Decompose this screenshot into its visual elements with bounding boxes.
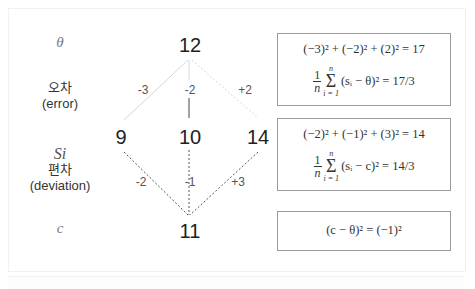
c-label: c bbox=[15, 220, 105, 237]
deviation-value-3: +3 bbox=[231, 175, 245, 189]
deviation-edge-1 bbox=[124, 152, 188, 215]
theta-label: θ bbox=[15, 34, 105, 51]
theta-node: 12 bbox=[179, 34, 201, 56]
deviation-formula-box: (−2)² + (−1)² + (3)² = 14 1 n n Σ i = 1 … bbox=[277, 118, 451, 191]
error-formula-box: (−3)² + (−2)² + (2)² = 17 1 n n Σ i = 1 … bbox=[277, 33, 451, 106]
error-label-en: (error) bbox=[15, 96, 105, 112]
deviation-label-en: (deviation) bbox=[15, 178, 105, 194]
s3-node: 14 bbox=[247, 126, 269, 148]
error-value-2: -2 bbox=[185, 83, 196, 97]
sigma-icon: n Σ i = 1 bbox=[324, 149, 340, 183]
deviation-value-1: -2 bbox=[136, 175, 147, 189]
deviation-mean-formula: 1 n n Σ i = 1 (sᵢ − c)² = 14/3 bbox=[278, 149, 450, 183]
deviation-edge-3 bbox=[190, 152, 258, 215]
error-value-3: +2 bbox=[238, 83, 252, 97]
fraction: 1 n bbox=[314, 154, 322, 179]
error-label-ko: 오차 bbox=[15, 80, 105, 96]
c-node: 11 bbox=[180, 220, 201, 242]
bias-formula: (c − θ)² = (−1)² bbox=[278, 223, 450, 238]
error-sum-squares: (−3)² + (−2)² + (2)² = 17 bbox=[278, 42, 450, 57]
s1-node: 9 bbox=[115, 126, 126, 148]
error-edge-1 bbox=[124, 60, 188, 120]
sigma-icon: n Σ i = 1 bbox=[323, 64, 339, 98]
si-label: Si 편차 (deviation) bbox=[15, 146, 105, 194]
error-value-1: -3 bbox=[138, 83, 149, 97]
error-mean-formula: 1 n n Σ i = 1 (sᵢ − θ)² = 17/3 bbox=[278, 64, 450, 98]
fraction: 1 n bbox=[313, 69, 321, 94]
deviation-sum-squares: (−2)² + (−1)² + (3)² = 14 bbox=[278, 127, 450, 142]
bias-formula-box: (c − θ)² = (−1)² bbox=[277, 211, 451, 251]
error-label: 오차 (error) bbox=[15, 80, 105, 112]
deviation-label-ko: 편차 bbox=[15, 162, 105, 178]
s2-node: 10 bbox=[179, 126, 201, 148]
deviation-value-2: -1 bbox=[185, 175, 196, 189]
